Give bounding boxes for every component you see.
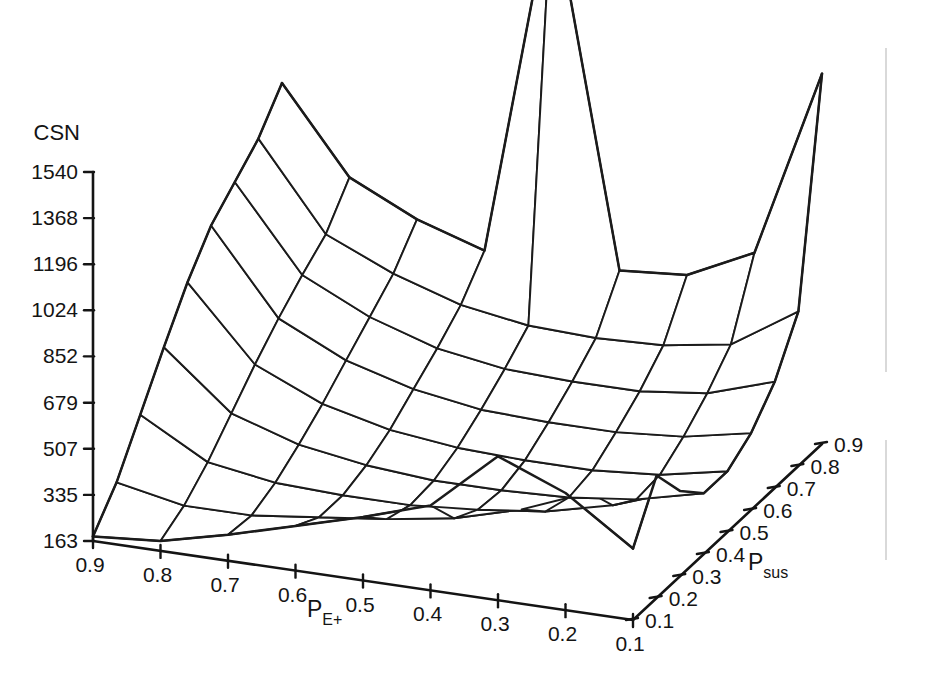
y-tick-label: 0.7 xyxy=(787,477,816,500)
y-axis-tick xyxy=(650,596,662,598)
x-tick-label: 0.1 xyxy=(615,632,644,655)
surface-plot-canvas: 1540136811961024852679507335163CSN0.90.8… xyxy=(0,0,928,692)
x-tick-label: 0.6 xyxy=(278,583,307,606)
y-axis-tick xyxy=(673,574,685,576)
x-tick-label: 0.7 xyxy=(210,573,239,596)
y-tick-label: 0.1 xyxy=(645,609,674,632)
y-axis-tick xyxy=(721,530,733,532)
y-axis-tick xyxy=(791,464,803,466)
y-tick-label: 0.8 xyxy=(810,455,839,478)
x-tick-label: 0.8 xyxy=(143,563,172,586)
y-tick-label: 0.3 xyxy=(692,565,721,588)
x-tick-label: 0.3 xyxy=(480,612,509,635)
y-axis-tick xyxy=(744,508,756,510)
z-tick-label: 679 xyxy=(43,391,78,414)
z-tick-label: 335 xyxy=(43,483,78,506)
y-tick-label: 0.2 xyxy=(669,587,698,610)
z-tick-label: 1540 xyxy=(31,160,78,183)
x-tick-label: 0.4 xyxy=(413,602,443,625)
y-tick-label: 0.6 xyxy=(763,499,792,522)
z-tick-label: 1368 xyxy=(31,206,78,229)
z-tick-label: 507 xyxy=(43,437,78,460)
y-axis-tick xyxy=(697,552,709,554)
y-tick-label: 0.4 xyxy=(716,543,746,566)
x-tick-label: 0.9 xyxy=(75,553,104,576)
y-tick-label: 0.5 xyxy=(740,521,769,544)
x-tick-label: 0.2 xyxy=(548,622,577,645)
z-tick-label: 1024 xyxy=(31,298,78,321)
z-tick-label: 852 xyxy=(43,344,78,367)
y-axis-title-subscript: sus xyxy=(763,564,788,581)
y-axis-title: Psus xyxy=(748,549,788,581)
y-tick-label: 0.9 xyxy=(834,433,863,456)
z-tick-label: 1196 xyxy=(33,252,78,275)
z-tick-label: 163 xyxy=(43,529,78,552)
surface-mesh xyxy=(93,0,822,548)
x-axis-title-subscript: E+ xyxy=(322,611,342,628)
x-axis-title: PE+ xyxy=(307,596,342,628)
y-axis-tick xyxy=(768,486,780,488)
z-axis-title: CSN xyxy=(34,120,80,145)
x-tick-label: 0.5 xyxy=(345,593,374,616)
y-axis-tick xyxy=(815,442,827,444)
surface-plot-figure: 1540136811961024852679507335163CSN0.90.8… xyxy=(0,0,928,692)
